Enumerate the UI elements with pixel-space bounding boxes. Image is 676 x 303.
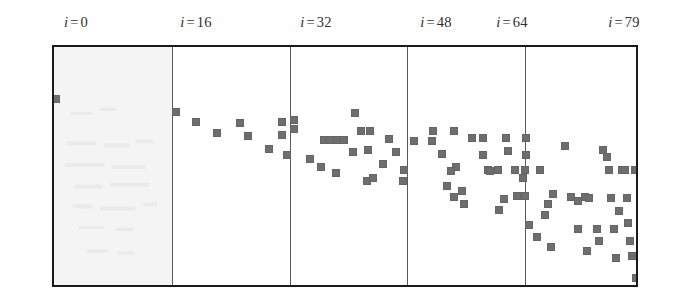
data-point (392, 148, 400, 156)
data-point (612, 254, 620, 262)
data-point (544, 200, 552, 208)
data-point (536, 166, 544, 174)
data-point (443, 182, 451, 190)
data-point (511, 166, 519, 174)
data-point (54, 95, 60, 103)
label-value: 32 (317, 14, 332, 30)
data-point (574, 225, 582, 233)
data-point (632, 274, 636, 282)
data-point (521, 166, 529, 174)
label-value: 16 (197, 14, 212, 30)
data-point (549, 190, 557, 198)
data-point (522, 151, 530, 159)
data-point (278, 118, 286, 126)
data-point (595, 237, 603, 245)
label-equals-sign: = (68, 14, 80, 30)
data-point (332, 169, 340, 177)
panel-divider-2 (290, 47, 291, 285)
data-point (541, 211, 549, 219)
plot-interior (54, 47, 636, 285)
data-point (610, 225, 618, 233)
data-point (479, 151, 487, 159)
data-point (278, 131, 286, 139)
label-value: 79 (625, 14, 640, 30)
data-point (400, 166, 408, 174)
data-point (447, 167, 455, 175)
label-value: 64 (513, 14, 528, 30)
data-point (369, 174, 377, 182)
data-point (351, 109, 359, 117)
data-point (290, 116, 298, 124)
data-point (429, 127, 437, 135)
data-point (628, 252, 636, 260)
data-point (317, 163, 325, 171)
data-point (450, 127, 458, 135)
data-point (593, 225, 601, 233)
data-point (504, 147, 512, 155)
data-point (438, 150, 446, 158)
label-value: 48 (437, 14, 452, 30)
data-point (486, 167, 494, 175)
data-point (494, 166, 502, 174)
data-point (213, 129, 221, 137)
data-point (495, 206, 503, 214)
data-point (626, 237, 634, 245)
data-point (399, 177, 407, 185)
data-point (533, 233, 541, 241)
data-point (468, 134, 476, 142)
data-point (632, 166, 636, 174)
label-equals-sign: = (500, 14, 512, 30)
data-point (603, 153, 611, 161)
data-point (460, 200, 468, 208)
data-point (624, 219, 632, 227)
data-point (366, 127, 374, 135)
column-label-79: i=79 (608, 14, 640, 31)
data-point (519, 174, 527, 182)
data-point (283, 151, 291, 159)
data-point (244, 132, 252, 140)
data-point (525, 221, 533, 229)
data-point (340, 136, 348, 144)
data-point (583, 247, 591, 255)
data-point (479, 134, 487, 142)
data-point (410, 137, 418, 145)
data-point (192, 118, 200, 126)
data-point (290, 125, 298, 133)
data-point (500, 195, 508, 203)
data-point (607, 194, 615, 202)
label-equals-sign: = (304, 14, 316, 30)
column-label-48: i=48 (420, 14, 452, 31)
data-point (172, 108, 180, 116)
data-point (621, 166, 629, 174)
data-point (585, 194, 593, 202)
first-panel-tint (54, 47, 172, 285)
data-point (502, 134, 510, 142)
data-point (385, 135, 393, 143)
data-point (428, 137, 436, 145)
label-value: 0 (81, 14, 88, 30)
data-point (450, 193, 458, 201)
data-point (236, 119, 244, 127)
column-label-0: i=0 (64, 14, 88, 31)
data-point (605, 166, 613, 174)
label-equals-sign: = (184, 14, 196, 30)
column-label-32: i=32 (300, 14, 332, 31)
label-equals-sign: = (612, 14, 624, 30)
label-equals-sign: = (424, 14, 436, 30)
panel-divider-1 (172, 47, 173, 285)
column-label-row: i=0i=16i=32i=48i=64i=79 (0, 0, 676, 44)
data-point (265, 145, 273, 153)
data-point (458, 187, 466, 195)
data-point (547, 243, 555, 251)
data-point (357, 127, 365, 135)
data-point (513, 192, 521, 200)
data-point (379, 160, 387, 168)
data-point (306, 155, 314, 163)
plot-frame (52, 45, 638, 287)
data-point (561, 142, 569, 150)
data-point (364, 146, 372, 154)
column-label-64: i=64 (496, 14, 528, 31)
data-point (615, 207, 623, 215)
data-point (521, 192, 529, 200)
data-point (623, 194, 631, 202)
